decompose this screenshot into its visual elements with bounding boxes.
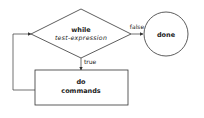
test-expression-label: test-expression — [55, 34, 107, 42]
done-circle: done — [144, 12, 188, 56]
commands-box: do commands — [35, 70, 128, 105]
do-label: do — [76, 78, 86, 86]
loop-back-edge — [13, 34, 35, 90]
done-label: done — [157, 31, 176, 39]
true-edge: true — [81, 58, 97, 70]
while-label: while — [71, 26, 91, 34]
false-edge: false — [130, 23, 145, 34]
while-loop-flowchart: while test-expression false done true do… — [0, 0, 204, 118]
false-label: false — [130, 23, 145, 30]
true-label: true — [84, 58, 97, 65]
commands-label: commands — [61, 87, 101, 95]
condition-diamond: while test-expression — [31, 9, 131, 58]
